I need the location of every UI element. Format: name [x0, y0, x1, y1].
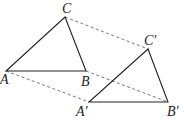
label-A: A	[0, 72, 9, 87]
label-B: B	[81, 74, 90, 89]
triangle-ABC	[6, 17, 86, 71]
triangle-A'B'C'	[89, 49, 168, 102]
label-B-prime: B′	[167, 104, 180, 119]
dashed-segment-BB'	[86, 71, 168, 102]
label-C-prime: C′	[144, 33, 157, 48]
dashed-segment-CC'	[65, 17, 148, 49]
label-C: C	[62, 1, 72, 16]
dashed-segment-AA'	[6, 71, 89, 102]
label-A-prime: A′	[75, 104, 89, 119]
translation-diagram: A B C A′ B′ C′	[0, 0, 184, 120]
